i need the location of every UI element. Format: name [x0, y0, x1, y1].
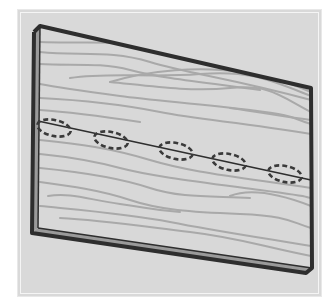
- board-face: [38, 26, 312, 268]
- board-illustration: [0, 0, 329, 306]
